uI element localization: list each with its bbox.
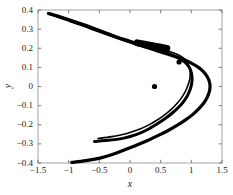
data-point-marker [152, 84, 157, 89]
y-tick-label: −0.2 [0, 120, 33, 129]
x-tick-label: 1 [176, 166, 206, 175]
x-axis-title: x [120, 179, 140, 189]
figure-container: −0.4−0.3−0.2−0.100.10.20.30.4 −1.5−1−0.5… [0, 0, 233, 195]
y-tick-label: −0.1 [0, 101, 33, 110]
x-tick-label: −1 [54, 166, 84, 175]
data-point-marker [176, 59, 181, 64]
y-tick-label: 0.1 [0, 63, 33, 72]
x-tick-label: 0 [115, 166, 145, 175]
x-tick-label: −0.5 [84, 166, 114, 175]
y-tick-label: 0.4 [0, 6, 33, 15]
y-tick-label: 0.2 [0, 44, 33, 53]
x-tick-label: 0.5 [146, 166, 176, 175]
y-tick-label: −0.3 [0, 139, 33, 148]
y-tick-label: 0.3 [0, 25, 33, 34]
y-axis-title: y [3, 80, 13, 92]
x-tick-label: −1.5 [23, 166, 53, 175]
x-tick-label: 1.5 [207, 166, 233, 175]
